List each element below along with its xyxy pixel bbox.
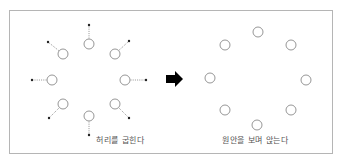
- direction-dot-icon: [47, 41, 49, 43]
- person-circle: [301, 75, 311, 85]
- person-circle: [110, 49, 120, 59]
- motion-direction-line: [49, 108, 59, 118]
- person-circle: [252, 120, 262, 130]
- person-circle: [120, 75, 130, 85]
- person-circle: [286, 40, 296, 50]
- right-panel-sitting: [205, 27, 311, 130]
- person-circle: [286, 105, 296, 115]
- direction-dot-icon: [88, 24, 90, 26]
- left-caption: 허리를 굽힌다: [96, 134, 144, 145]
- person-circle: [58, 99, 68, 109]
- direction-dot-icon: [128, 40, 130, 42]
- person-circle: [253, 27, 263, 37]
- right-caption: 원안을 보며 앉는다: [222, 134, 288, 145]
- person-circle: [110, 99, 120, 109]
- direction-dot-icon: [48, 117, 50, 119]
- motion-direction-line: [119, 41, 129, 50]
- person-circle: [84, 111, 94, 121]
- left-panel-bending: [31, 24, 147, 136]
- person-circle: [47, 75, 57, 85]
- direction-dot-icon: [128, 117, 130, 119]
- person-circle: [220, 105, 230, 115]
- diagram-canvas: [0, 0, 339, 162]
- person-circle: [58, 49, 68, 59]
- right-arrow-icon: [166, 71, 183, 87]
- direction-dot-icon: [31, 79, 33, 81]
- direction-dot-icon: [145, 79, 147, 81]
- direction-dot-icon: [88, 134, 90, 136]
- motion-direction-line: [119, 108, 129, 118]
- person-circle: [84, 39, 94, 49]
- person-circle: [220, 40, 230, 50]
- motion-direction-line: [48, 42, 59, 51]
- person-circle: [205, 73, 215, 83]
